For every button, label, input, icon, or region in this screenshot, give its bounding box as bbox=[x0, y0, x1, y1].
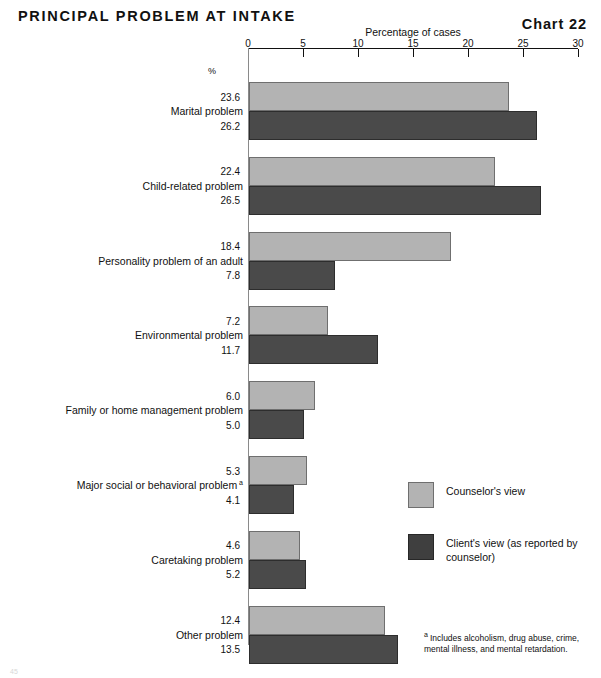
bar-value-label: 5.3 bbox=[226, 465, 240, 476]
legend: Counselor's viewClient's view (as report… bbox=[408, 482, 598, 586]
bar-counselor bbox=[249, 456, 307, 485]
legend-item: Client's view (as reported by counselor) bbox=[408, 534, 598, 568]
bar-value-label: 5.2 bbox=[226, 569, 240, 580]
footnote-marker: a bbox=[424, 631, 428, 638]
bar-client bbox=[249, 485, 294, 514]
category-label: Environmental problem bbox=[135, 329, 243, 341]
category-label: Personality problem of an adult bbox=[98, 255, 243, 267]
legend-label: Client's view (as reported by counselor) bbox=[446, 537, 596, 564]
footnote-text: Includes alcoholism, drug abuse, crime, … bbox=[424, 633, 579, 655]
footnote: aIncludes alcoholism, drug abuse, crime,… bbox=[424, 629, 592, 656]
bar-value-label: 11.7 bbox=[221, 344, 240, 355]
category-label: Marital problem bbox=[171, 105, 243, 117]
bar-value-label: 6.0 bbox=[226, 390, 240, 401]
bar-value-label: 18.4 bbox=[221, 241, 240, 252]
bar-value-label: 4.1 bbox=[226, 494, 240, 505]
bar-value-label: 7.2 bbox=[226, 315, 240, 326]
bar-value-label: 7.8 bbox=[226, 270, 240, 281]
bar-value-label: 22.4 bbox=[221, 166, 240, 177]
legend-label: Counselor's view bbox=[446, 485, 596, 499]
category-label: Other problem bbox=[176, 629, 243, 641]
legend-swatch bbox=[408, 482, 434, 508]
bar-counselor bbox=[249, 157, 495, 186]
bar-value-label: 12.4 bbox=[221, 615, 240, 626]
bar-client bbox=[249, 261, 335, 290]
bar-value-label: 26.2 bbox=[221, 120, 240, 131]
bar-value-label: 4.6 bbox=[226, 540, 240, 551]
bar-counselor bbox=[249, 531, 300, 560]
category-label: Child-related problem bbox=[143, 180, 243, 192]
bar-client bbox=[249, 560, 306, 589]
bar-client bbox=[249, 410, 304, 439]
bar-counselor bbox=[249, 82, 509, 111]
bar-client bbox=[249, 186, 541, 215]
bar-client bbox=[249, 335, 378, 364]
legend-item: Counselor's view bbox=[408, 482, 598, 516]
category-label: Major social or behavioral problem a bbox=[77, 479, 243, 492]
bar-counselor bbox=[249, 381, 315, 410]
category-footnote-marker: a bbox=[237, 479, 243, 486]
bar-value-label: 5.0 bbox=[226, 419, 240, 430]
category-label: Caretaking problem bbox=[151, 554, 243, 566]
bar-counselor bbox=[249, 306, 328, 335]
bar-value-label: 26.5 bbox=[221, 195, 240, 206]
bar-counselor bbox=[249, 232, 451, 261]
bar-client bbox=[249, 635, 398, 664]
bar-value-label: 23.6 bbox=[221, 91, 240, 102]
bar-value-label: 13.5 bbox=[221, 644, 240, 655]
bar-counselor bbox=[249, 606, 385, 635]
page-number: 45 bbox=[10, 668, 18, 675]
category-label: Family or home management problem bbox=[66, 404, 243, 416]
legend-swatch bbox=[408, 534, 434, 560]
bar-client bbox=[249, 111, 537, 140]
chart-page: PRINCIPAL PROBLEM AT INTAKE Chart 22 Per… bbox=[0, 0, 601, 678]
